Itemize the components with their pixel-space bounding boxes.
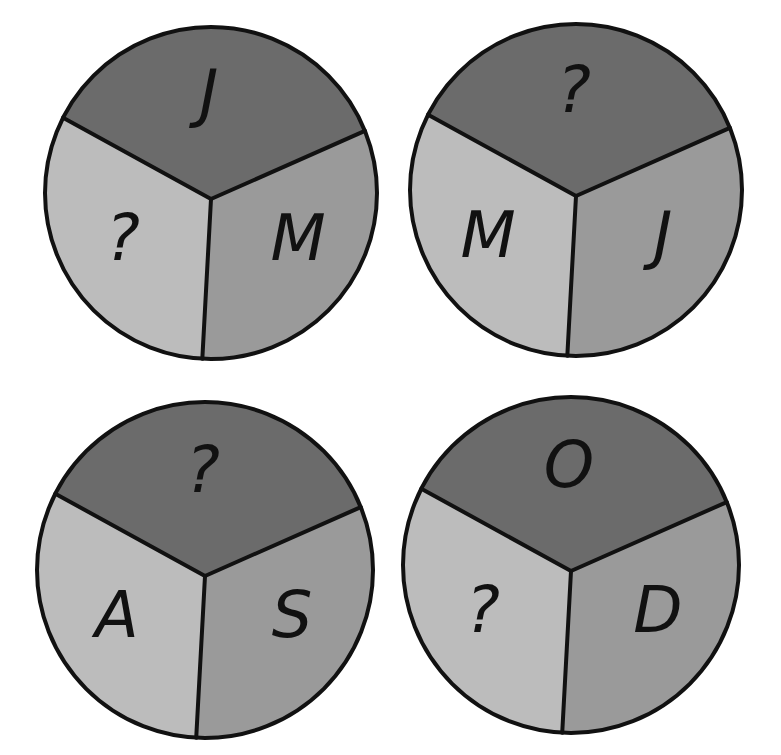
label-right: M: [270, 201, 325, 275]
label-top: O: [544, 428, 594, 502]
puzzle-figure: J?M?MJ?ASO?D: [0, 0, 781, 755]
label-top: ?: [557, 53, 591, 127]
label-left: ?: [106, 201, 140, 275]
label-top: ?: [186, 433, 220, 507]
label-right: D: [633, 573, 682, 647]
label-right: S: [272, 578, 313, 652]
label-left: M: [460, 198, 515, 272]
circle-top-left: J?M: [45, 27, 377, 359]
label-left: A: [91, 578, 139, 652]
label-left: ?: [466, 573, 500, 647]
circle-bottom-left: ?AS: [37, 402, 373, 738]
circle-bottom-right: O?D: [403, 397, 739, 733]
circle-top-right: ?MJ: [410, 24, 742, 356]
